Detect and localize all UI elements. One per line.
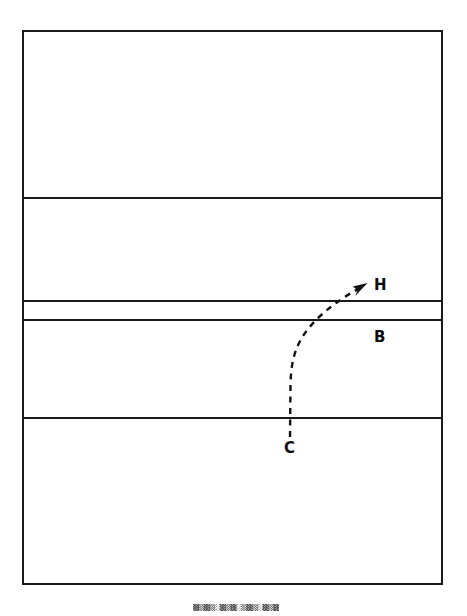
- strata-layer-group: [23, 30, 442, 585]
- layer-3: [23, 301, 442, 320]
- layer-5: [23, 418, 442, 585]
- degraded-caption: ▓▒▓▒░▓▒▓░▒▓▒░▓▒▓░▒▓▒▓: [193, 604, 279, 611]
- label-b: B: [374, 328, 385, 346]
- figure-root: H B C ▓▒▓▒░▓▒▓░▒▓▒░▓▒▓░▒▓▒▓: [0, 0, 467, 616]
- label-c: C: [284, 439, 295, 457]
- layer-1: [23, 30, 442, 198]
- cross-section-diagram: H B C: [0, 0, 467, 616]
- label-h: H: [374, 276, 387, 294]
